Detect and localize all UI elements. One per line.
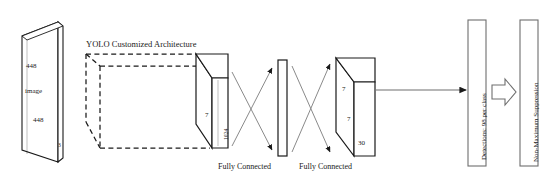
hollow-block-arrow <box>492 79 516 105</box>
input-height-label: 448 <box>26 63 37 70</box>
nms-box-label: Non-Maximum Suppression <box>533 82 540 162</box>
architecture-title: YOLO Customized Architecture <box>86 40 196 49</box>
conv-depth-label: 1024 <box>224 129 230 140</box>
crossed-arrows-left <box>232 68 272 150</box>
crossed-arrows-right <box>292 64 330 152</box>
output-tensor-cube <box>336 58 375 156</box>
conv-backbone-dashed-frustum <box>86 54 210 148</box>
output-height-label: 7 <box>342 86 346 93</box>
fully-connected-bar <box>278 60 287 156</box>
detections-box-label: Detections: 98 per class <box>481 93 488 160</box>
output-depth-label: 30 <box>358 140 365 147</box>
conv-side-label: 7 <box>205 112 209 119</box>
input-center-label: image <box>25 88 42 95</box>
figure-canvas: YOLO Customized Architecture 448 image 4… <box>0 0 548 182</box>
input-width-label: 448 <box>33 117 44 124</box>
fc-label-1: Fully Connected <box>218 163 271 171</box>
input-depth-label: 3 <box>58 143 61 149</box>
output-width-label: 7 <box>347 116 351 123</box>
diagram-vector-layer <box>0 0 548 182</box>
fc-label-2: Fully Connected <box>299 163 352 171</box>
